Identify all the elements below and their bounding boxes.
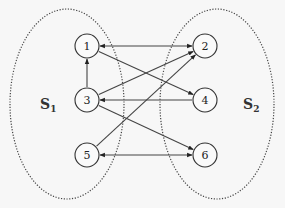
node-5: 5 xyxy=(75,143,99,167)
node-label: 5 xyxy=(84,149,91,162)
set-s1: S1 xyxy=(10,9,124,199)
node-2: 2 xyxy=(193,34,217,58)
node-label: 6 xyxy=(202,149,209,162)
set-s2: S2 xyxy=(160,9,274,199)
node-label: 3 xyxy=(84,94,91,107)
set-label: S2 xyxy=(243,96,259,114)
node-6: 6 xyxy=(193,143,217,167)
node-3: 3 xyxy=(75,88,99,112)
bipartite-graph-diagram: S1S2 123456 xyxy=(0,0,285,208)
node-label: 1 xyxy=(84,40,91,53)
node-1: 1 xyxy=(75,34,99,58)
node-label: 4 xyxy=(202,94,209,107)
set-ellipse xyxy=(10,9,124,199)
node-label: 2 xyxy=(202,40,209,53)
node-4: 4 xyxy=(193,88,217,112)
edges-layer xyxy=(87,46,195,155)
edge-3-to-6 xyxy=(99,105,193,149)
set-label: S1 xyxy=(40,96,56,114)
